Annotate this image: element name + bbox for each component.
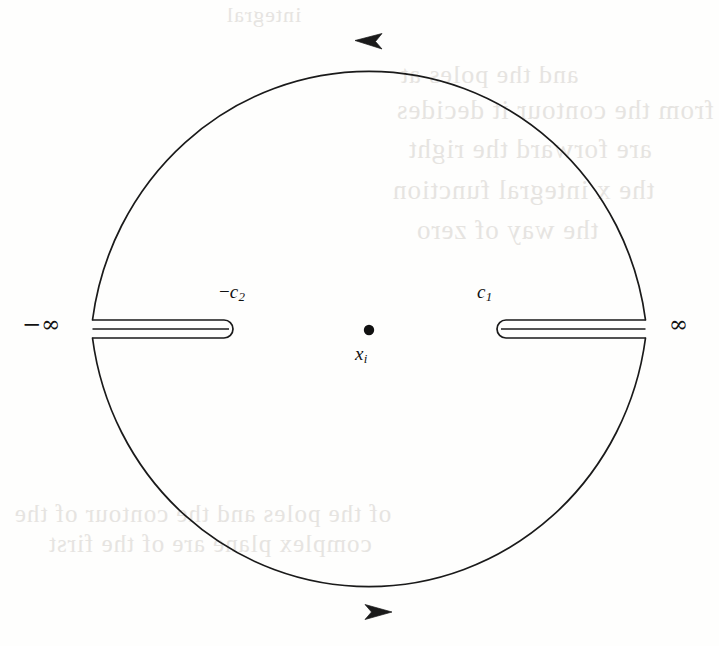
circle-arc-upper — [93, 71, 646, 320]
label-minus-c2-symbol: c — [230, 281, 238, 302]
label-minus-c2-subscript: 2 — [238, 289, 244, 304]
label-plus-infinity: ∞ — [669, 311, 688, 337]
top-arrow-icon — [355, 34, 382, 50]
label-c1-subscript: 1 — [486, 289, 492, 304]
circle-arc-lower — [93, 338, 646, 587]
label-c1-symbol: c — [477, 281, 485, 302]
figure-root: integral and the poles at from the conto… — [0, 0, 719, 646]
bottom-arrow-icon — [365, 605, 392, 620]
label-c1: c1 — [477, 281, 492, 305]
label-minus-c2-prefix: − — [219, 281, 230, 302]
pole-point-marker — [364, 325, 374, 335]
label-minus-infinity: −∞ — [22, 311, 60, 337]
label-minus-c2: −c2 — [219, 281, 245, 305]
label-pole-xi: xi — [355, 343, 367, 367]
contour-diagram — [0, 0, 719, 646]
label-pole-symbol: x — [355, 343, 363, 364]
label-pole-subscript: i — [364, 351, 368, 366]
